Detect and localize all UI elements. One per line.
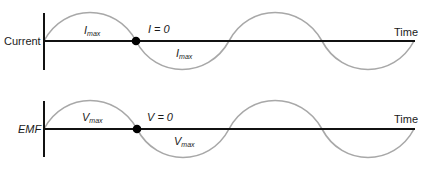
emf-panel: EMF Time V = 0 Vmax Vmax xyxy=(18,101,418,158)
current-lower-max-label: Imax xyxy=(176,47,193,60)
current-zero-crossing-dot xyxy=(132,37,141,46)
current-panel: Current Time I = 0 Imax Imax xyxy=(4,13,418,71)
emf-upper-max-label: Vmax xyxy=(82,111,103,124)
emf-time-label: Time xyxy=(394,113,418,125)
current-zero-label: I = 0 xyxy=(148,23,171,35)
emf-lower-max-label: Vmax xyxy=(174,135,195,148)
current-time-label: Time xyxy=(394,26,418,38)
emf-zero-label: V = 0 xyxy=(147,111,174,123)
emf-axis-label: EMF xyxy=(18,123,43,135)
emf-zero-crossing-dot xyxy=(133,125,142,134)
current-axis-label: Current xyxy=(4,35,41,47)
current-upper-max-label: Imax xyxy=(84,24,101,37)
ac-sine-diagram: Current Time I = 0 Imax Imax EMF Time V … xyxy=(0,0,429,170)
